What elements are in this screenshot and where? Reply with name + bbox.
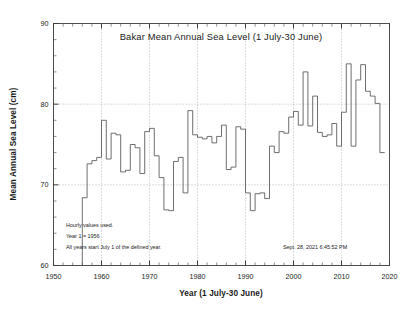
y-axis-title: Mean Annual Sea Level (cm) — [9, 87, 18, 200]
y-tick-label: 60 — [41, 261, 49, 270]
x-tick-label: 2010 — [334, 272, 350, 281]
x-axis-title: Year (1 July-30 June) — [179, 289, 263, 298]
x-tick-label: 1950 — [46, 272, 62, 281]
annotation-hourly-values: Hourly values used. — [66, 222, 113, 228]
x-tick-label: 2000 — [286, 272, 302, 281]
annotation-year-start: All years start July 1 of the defined ye… — [66, 244, 162, 250]
x-tick-label: 1980 — [190, 272, 206, 281]
x-tick-label: 1970 — [142, 272, 158, 281]
x-tick-label: 1960 — [94, 272, 110, 281]
x-tick-label: 2020 — [382, 272, 398, 281]
y-tick-label: 90 — [41, 19, 49, 28]
x-tick-label: 1990 — [238, 272, 254, 281]
chart-figure: 19501960197019801990200020102020 6070809… — [0, 0, 412, 315]
y-tick-label: 80 — [41, 100, 49, 109]
annotation-year-one: Year 1 = 1956 — [66, 233, 100, 239]
sea-level-line-chart: 19501960197019801990200020102020 6070809… — [0, 0, 412, 315]
y-tick-label: 70 — [41, 180, 49, 189]
chart-background — [0, 0, 412, 315]
chart-title: Bakar Mean Annual Sea Level (1 July-30 J… — [120, 31, 323, 42]
timestamp-label: Sept. 28, 2021 6:45:52 PM — [283, 244, 348, 250]
